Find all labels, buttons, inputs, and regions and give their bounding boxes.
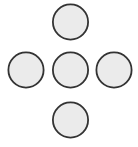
circle-center bbox=[53, 52, 88, 87]
circle-bottom bbox=[53, 102, 88, 137]
circle-top bbox=[53, 4, 88, 39]
dot-pattern-svg bbox=[0, 0, 138, 147]
circle-left bbox=[8, 52, 43, 87]
circle-right bbox=[96, 52, 131, 87]
quincunx-figure bbox=[0, 0, 138, 147]
